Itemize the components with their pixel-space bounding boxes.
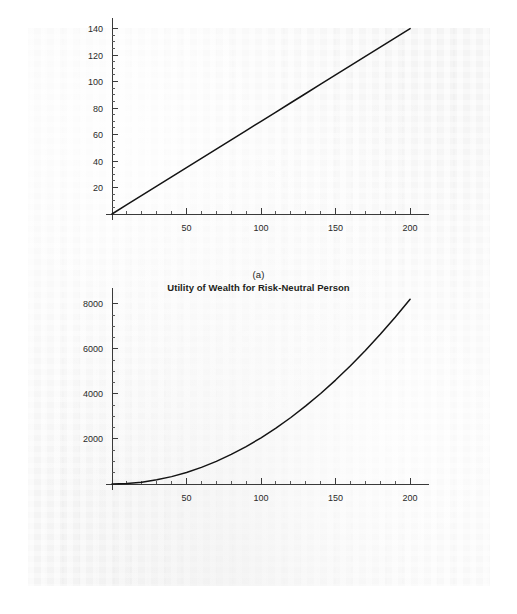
y-axis-tick-label: 2000 <box>83 434 103 444</box>
x-axis-tick-label: 100 <box>254 493 269 503</box>
y-axis-tick-label: 8000 <box>83 299 103 309</box>
x-axis-tick-label: 100 <box>254 223 269 233</box>
data-series-line <box>112 299 410 484</box>
chart-a-svg: 5010015020020406080100120140 <box>0 0 517 260</box>
y-axis-tick-label: 100 <box>88 77 103 87</box>
x-axis-tick-label: 150 <box>328 223 343 233</box>
y-axis-tick-label: 40 <box>93 157 103 167</box>
data-series-line <box>112 29 410 214</box>
y-axis-tick-label: 120 <box>88 51 103 61</box>
figure-a: 5010015020020406080100120140 (a) Utility… <box>0 0 517 307</box>
y-axis-tick-label: 4000 <box>83 389 103 399</box>
x-axis-tick-label: 200 <box>403 493 418 503</box>
y-axis-tick-label: 6000 <box>83 344 103 354</box>
x-axis-tick-label: 200 <box>403 223 418 233</box>
x-axis-tick-label: 50 <box>182 493 192 503</box>
figure-b: 501001502002000400060008000 (b) Utility … <box>0 270 517 590</box>
plot-area-b: 501001502002000400060008000 <box>0 270 517 520</box>
plot-area-a: 5010015020020406080100120140 <box>0 0 517 250</box>
x-axis-tick-label: 50 <box>182 223 192 233</box>
y-axis-tick-label: 80 <box>93 104 103 114</box>
x-axis-tick-label: 150 <box>328 493 343 503</box>
chart-b-svg: 501001502002000400060008000 <box>0 270 517 530</box>
y-axis-tick-label: 20 <box>93 183 103 193</box>
y-axis-tick-label: 140 <box>88 24 103 34</box>
y-axis-tick-label: 60 <box>93 130 103 140</box>
figure-page: 5010015020020406080100120140 (a) Utility… <box>0 0 517 614</box>
